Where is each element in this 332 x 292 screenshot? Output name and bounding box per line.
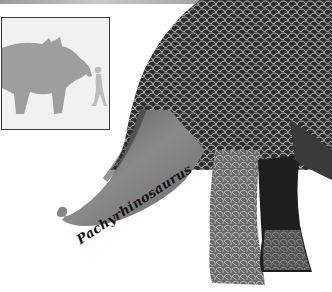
dinosaur-silhouette	[2, 37, 92, 114]
dinosaur-leg-front	[209, 150, 265, 285]
scale-comparison-inset	[1, 17, 110, 130]
human-silhouette	[91, 74, 108, 106]
human-head	[95, 67, 102, 74]
